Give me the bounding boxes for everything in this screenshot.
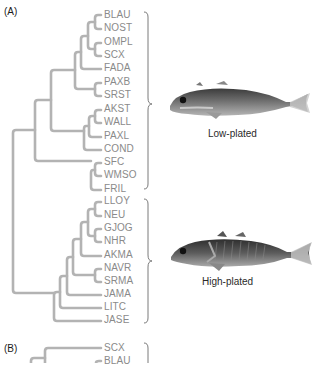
taxon-label: AKMA xyxy=(104,250,133,260)
taxon-label: LITC xyxy=(104,302,126,312)
high-plated-caption: High-plated xyxy=(202,276,253,287)
low-plated-caption: Low-plated xyxy=(208,128,257,139)
taxon-label: JAMA xyxy=(104,289,131,299)
taxon-label: SCX xyxy=(104,343,125,353)
taxon-label: SCX xyxy=(104,50,125,60)
taxon-label: PAXB xyxy=(104,77,130,87)
taxon-label: OMPL xyxy=(104,37,133,47)
low-plated-fish-icon xyxy=(168,80,313,120)
taxon-label: NHR xyxy=(104,236,126,246)
taxon-label: PAXL xyxy=(104,131,129,141)
taxon-label: BLAU xyxy=(104,356,131,366)
taxon-label: SFC xyxy=(104,157,124,167)
taxon-label: LLOY xyxy=(104,196,130,206)
taxon-label: NAVR xyxy=(104,263,131,273)
taxon-label: FRIL xyxy=(104,184,126,194)
taxon-label: NEU xyxy=(104,210,125,220)
taxon-label: COND xyxy=(104,144,134,154)
taxon-label: WMSO xyxy=(104,170,137,180)
taxon-label: NOST xyxy=(104,23,132,33)
taxon-label: SRMA xyxy=(104,276,133,286)
taxon-label: GJOG xyxy=(104,223,133,233)
panel-b-label: (B) xyxy=(4,343,17,354)
taxon-label: BLAU xyxy=(104,10,131,20)
taxon-label: FADA xyxy=(104,63,131,73)
taxon-label: AKST xyxy=(104,104,131,114)
taxon-label: SRST xyxy=(104,90,131,100)
taxon-label: WALL xyxy=(104,117,131,127)
high-plated-fish-icon xyxy=(169,230,314,272)
taxon-label: JASE xyxy=(104,315,129,325)
